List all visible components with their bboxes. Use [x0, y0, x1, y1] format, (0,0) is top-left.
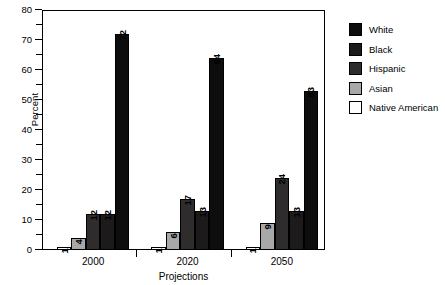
- bar-value-label: 1: [59, 248, 69, 253]
- y-tick-major: [35, 159, 42, 160]
- y-tick-major: [35, 69, 42, 70]
- y-tick-minor: [36, 54, 42, 55]
- legend-swatch-hispanic: [349, 62, 362, 75]
- y-tick-label: 40: [6, 125, 32, 135]
- y-tick-minor: [36, 84, 42, 85]
- legend-label: Black: [369, 44, 392, 55]
- legend-label: Native American: [369, 102, 438, 113]
- legend-swatch-asian: [349, 82, 362, 95]
- legend-swatch-black: [349, 43, 362, 56]
- bar-value-label: 4: [74, 239, 84, 244]
- y-tick-major: [35, 99, 42, 100]
- y-tick-minor: [36, 204, 42, 205]
- x-group-label: 2020: [148, 256, 228, 267]
- bar-value-label: 13: [291, 207, 301, 218]
- bar-value-label: 6: [168, 233, 178, 238]
- y-tick-major: [35, 9, 42, 10]
- x-tick: [231, 250, 232, 257]
- bar-value-label: 1: [248, 248, 258, 253]
- legend-label: White: [369, 24, 393, 35]
- bar-value-label: 12: [88, 210, 98, 221]
- legend-item: Native American: [349, 98, 445, 118]
- y-tick-minor: [36, 24, 42, 25]
- bar-value-label: 13: [197, 207, 207, 218]
- legend-item: Hispanic: [349, 59, 445, 79]
- x-group-label: 2000: [53, 256, 133, 267]
- legend-item: White: [349, 20, 445, 40]
- legend-item: Asian: [349, 79, 445, 99]
- x-axis-title: Projections: [42, 271, 325, 282]
- y-tick-minor: [36, 174, 42, 175]
- x-group-label: 2050: [242, 256, 322, 267]
- bar-value-label: 64: [212, 54, 222, 65]
- chart-legend: WhiteBlackHispanicAsianNative American: [349, 20, 445, 118]
- y-tick-label: 80: [6, 5, 32, 15]
- x-tick: [136, 250, 137, 257]
- bar-value-label: 1: [154, 248, 164, 253]
- y-tick-major: [35, 189, 42, 190]
- y-tick-major: [35, 249, 42, 250]
- y-tick-major: [35, 39, 42, 40]
- y-tick-minor: [36, 144, 42, 145]
- y-tick-label: 20: [6, 185, 32, 195]
- y-tick-minor: [36, 234, 42, 235]
- y-tick-major: [35, 219, 42, 220]
- bar-white-2050: [304, 91, 319, 250]
- y-tick-label: 30: [6, 155, 32, 165]
- y-tick-label: 70: [6, 35, 32, 45]
- bar-value-label: 17: [183, 195, 193, 206]
- bar-white-2000: [115, 34, 130, 250]
- y-tick-label: 0: [6, 245, 32, 255]
- y-tick-major: [35, 129, 42, 130]
- bar-value-label: 24: [277, 174, 287, 185]
- y-tick-label: 50: [6, 95, 32, 105]
- bar-hispanic-2050: [275, 178, 290, 250]
- y-tick-label: 60: [6, 65, 32, 75]
- bar-value-label: 53: [306, 87, 316, 98]
- bar-value-label: 9: [262, 224, 272, 229]
- legend-label: Asian: [369, 83, 393, 94]
- bar-white-2020: [209, 58, 224, 250]
- bar-value-label: 12: [103, 210, 113, 221]
- bar-value-label: 72: [117, 30, 127, 41]
- bar-hispanic-2020: [180, 199, 195, 250]
- legend-item: Black: [349, 40, 445, 60]
- y-tick-label: 10: [6, 215, 32, 225]
- legend-swatch-native-american: [349, 101, 362, 114]
- legend-swatch-white: [349, 23, 362, 36]
- bar-chart: Percent 01020304050607080 200020202050 P…: [0, 0, 445, 285]
- legend-label: Hispanic: [369, 63, 405, 74]
- y-tick-minor: [36, 114, 42, 115]
